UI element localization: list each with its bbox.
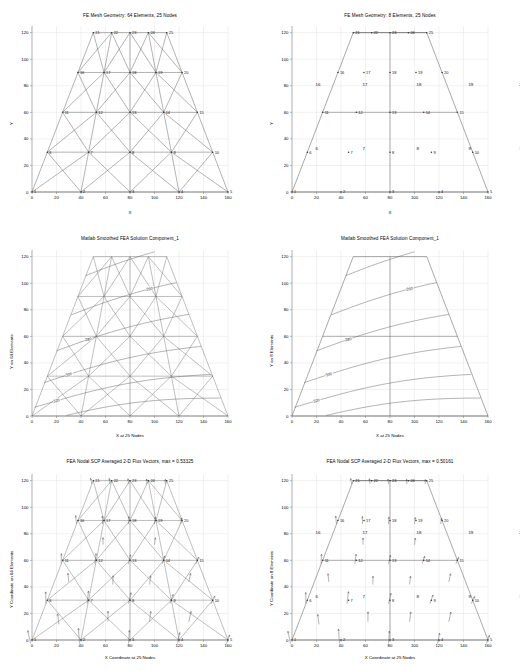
svg-text:19: 19	[158, 70, 162, 75]
svg-text:120: 120	[21, 478, 29, 483]
plot-mesh-64: 0204060801001201401600204060801001201234…	[0, 0, 260, 224]
svg-text:80: 80	[24, 83, 29, 88]
svg-text:0: 0	[31, 419, 34, 424]
svg-text:6: 6	[316, 146, 319, 151]
svg-text:18: 18	[416, 82, 421, 87]
svg-text:16: 16	[80, 518, 84, 523]
svg-text:7: 7	[351, 598, 353, 603]
svg-text:6: 6	[309, 598, 311, 603]
svg-text:120: 120	[435, 643, 443, 648]
figure-grid: FE Mesh Geometry: 64 Elements, 25 Nodes …	[0, 0, 520, 670]
plot-flux-64: 0204060801001201401600204060801001201234…	[0, 448, 260, 670]
y-axis-label: Y Coordinate on 64 Elements	[9, 551, 14, 608]
svg-text:15: 15	[199, 558, 203, 563]
svg-text:40: 40	[79, 195, 84, 200]
svg-text:5: 5	[490, 637, 492, 642]
svg-text:140: 140	[460, 419, 468, 424]
svg-text:9: 9	[433, 150, 435, 155]
panel-flux-8: FEA Nodal SCP Averaged 2-D Flux Vectors,…	[260, 448, 520, 670]
panel-contour-64: Matlab Smoothed FEA Solution Component_1…	[0, 224, 260, 448]
svg-text:1: 1	[34, 637, 36, 642]
svg-text:60: 60	[24, 334, 29, 339]
svg-text:20: 20	[24, 163, 29, 168]
svg-text:10: 10	[475, 598, 480, 603]
svg-text:60: 60	[103, 195, 108, 200]
svg-text:16: 16	[316, 82, 321, 87]
svg-text:80: 80	[24, 307, 29, 312]
svg-text:120: 120	[175, 419, 183, 424]
svg-text:9: 9	[173, 150, 175, 155]
svg-text:100: 100	[281, 505, 289, 510]
svg-text:20: 20	[24, 611, 29, 616]
svg-text:20: 20	[54, 643, 59, 648]
svg-text:8: 8	[416, 594, 419, 599]
panel-mesh-8: FE Mesh Geometry: 8 Elements, 25 Nodes 0…	[260, 0, 520, 224]
svg-text:7: 7	[91, 150, 93, 155]
svg-text:17: 17	[366, 518, 370, 523]
svg-text:2: 2	[343, 637, 345, 642]
svg-text:80: 80	[388, 195, 393, 200]
svg-text:40: 40	[79, 419, 84, 424]
svg-text:140: 140	[200, 419, 208, 424]
svg-text:2: 2	[83, 189, 85, 194]
svg-text:0: 0	[31, 195, 34, 200]
svg-text:40: 40	[284, 584, 289, 589]
svg-text:60: 60	[363, 419, 368, 424]
svg-text:9: 9	[433, 598, 435, 603]
svg-text:0: 0	[286, 638, 289, 643]
svg-text:19: 19	[468, 82, 473, 87]
svg-text:20: 20	[444, 518, 449, 523]
svg-text:11: 11	[325, 558, 329, 563]
svg-text:7: 7	[351, 150, 353, 155]
svg-text:9: 9	[173, 598, 175, 603]
svg-text:6: 6	[49, 598, 51, 603]
x-axis-label: X at 25 Nodes	[0, 433, 260, 438]
svg-text:3: 3	[392, 637, 394, 642]
svg-text:8: 8	[132, 150, 134, 155]
svg-text:120: 120	[281, 478, 289, 483]
svg-text:0: 0	[26, 638, 29, 643]
svg-text:160: 160	[484, 419, 492, 424]
svg-text:0: 0	[26, 414, 29, 419]
svg-text:19: 19	[468, 530, 473, 535]
svg-text:100: 100	[281, 281, 289, 286]
svg-text:15: 15	[199, 110, 203, 115]
svg-text:25: 25	[429, 478, 433, 483]
svg-text:60: 60	[24, 558, 29, 563]
svg-text:3: 3	[132, 189, 134, 194]
svg-text:10: 10	[475, 150, 480, 155]
svg-text:17: 17	[363, 82, 368, 87]
svg-text:160: 160	[224, 195, 232, 200]
svg-text:16: 16	[80, 70, 84, 75]
svg-text:80: 80	[284, 83, 289, 88]
svg-text:13: 13	[132, 110, 136, 115]
svg-text:40: 40	[339, 419, 344, 424]
plot-contour-64: 0204060801001201401600204060801001203203…	[0, 224, 260, 448]
svg-text:11: 11	[65, 558, 69, 563]
svg-text:100: 100	[21, 57, 29, 62]
svg-text:120: 120	[21, 30, 29, 35]
svg-text:20: 20	[314, 643, 319, 648]
svg-text:23: 23	[392, 478, 396, 483]
svg-text:0: 0	[286, 414, 289, 419]
svg-text:21: 21	[355, 478, 359, 483]
svg-text:13: 13	[392, 558, 396, 563]
svg-text:25: 25	[169, 30, 173, 35]
y-axis-label: Y	[9, 122, 14, 125]
svg-text:18: 18	[392, 518, 396, 523]
svg-text:40: 40	[24, 584, 29, 589]
svg-text:22: 22	[374, 478, 378, 483]
svg-text:7: 7	[363, 594, 366, 599]
svg-text:1: 1	[34, 189, 36, 194]
svg-text:20: 20	[284, 387, 289, 392]
svg-text:120: 120	[281, 254, 289, 259]
svg-text:22: 22	[114, 30, 118, 35]
svg-text:13: 13	[392, 110, 396, 115]
svg-text:20: 20	[284, 163, 289, 168]
svg-text:80: 80	[388, 419, 393, 424]
svg-text:20: 20	[314, 195, 319, 200]
svg-text:100: 100	[411, 643, 419, 648]
svg-text:23: 23	[392, 30, 396, 35]
svg-text:40: 40	[339, 643, 344, 648]
svg-text:8: 8	[392, 150, 394, 155]
